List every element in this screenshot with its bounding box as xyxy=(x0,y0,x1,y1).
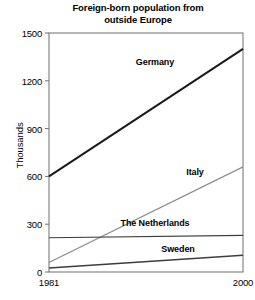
series-lines xyxy=(49,49,243,268)
series-line-the-netherlands xyxy=(49,235,243,237)
series-label-sweden: Sweden xyxy=(161,244,194,254)
chart-container: Foreign-born population from outside Eur… xyxy=(0,0,255,300)
series-line-sweden xyxy=(49,255,243,268)
series-label-germany: Germany xyxy=(136,57,174,67)
series-line-germany xyxy=(49,49,243,176)
series-label-netherlands: The Netherlands xyxy=(120,218,189,228)
plot-area xyxy=(0,0,255,300)
series-label-italy: Italy xyxy=(186,167,204,177)
series-line-italy xyxy=(49,167,243,263)
y-tick-marks xyxy=(45,33,49,272)
